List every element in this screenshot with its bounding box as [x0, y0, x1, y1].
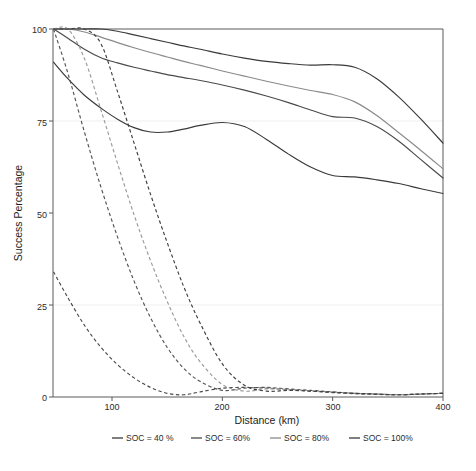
- xtick-label-100: 100: [104, 402, 119, 412]
- xtick-label-300: 300: [325, 402, 340, 412]
- legend-label-1: SOC = 40 %: [126, 433, 174, 443]
- ytick-label-50: 50: [37, 210, 47, 220]
- y-axis-title: Success Percentage: [12, 165, 24, 261]
- legend-label-2: SOC = 60%: [205, 433, 251, 443]
- ytick-label-25: 25: [37, 302, 47, 312]
- xtick-label-400: 400: [435, 402, 450, 412]
- ytick-label-75: 75: [37, 118, 47, 128]
- line-chart: 100 75 50 25 0 100 200 300 400 Distance …: [0, 0, 476, 471]
- chart-background: [0, 0, 476, 471]
- chart-figure: 100 75 50 25 0 100 200 300 400 Distance …: [0, 0, 476, 471]
- xtick-label-200: 200: [214, 402, 229, 412]
- ytick-label-100: 100: [32, 25, 47, 35]
- legend-label-4: SOC = 100%: [363, 433, 413, 443]
- ytick-label-0: 0: [42, 393, 47, 403]
- x-axis-title: Distance (km): [235, 414, 300, 426]
- legend-label-3: SOC = 80%: [284, 433, 330, 443]
